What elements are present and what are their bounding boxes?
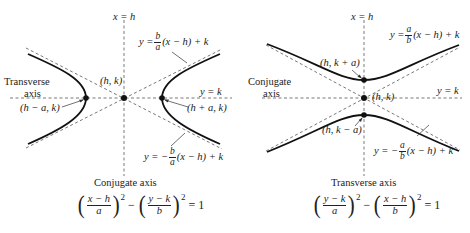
exponent: 2 (417, 192, 422, 202)
left-label-right-vertex: (h + a, k) (187, 103, 227, 114)
left-vertex-left-point (83, 95, 89, 101)
paren-open: ( (314, 192, 321, 218)
fraction-numerator: a (399, 141, 406, 152)
left-asym-lower-suffix: (x − h) + k (177, 152, 223, 163)
equals-one: = 1 (188, 198, 204, 213)
left-standard-equation: ( x − h a )2 − ( y − k b )2 = 1 (77, 192, 207, 218)
left-label-left-vertex: (h − a, k) (20, 103, 60, 114)
right-vertex-top-point (361, 77, 367, 83)
equals-one: = 1 (424, 198, 440, 213)
left-label-transverse-axis-1: Transverse (4, 77, 50, 88)
minus-sign: − (364, 198, 371, 213)
paren-close: ) (348, 192, 355, 218)
right-label-center: (h, k) (372, 92, 394, 103)
fraction-denominator: a (169, 158, 176, 168)
right-label-transverse-axis: Transverse axis (331, 178, 396, 189)
paren-open: ( (139, 192, 146, 218)
right-label-top-vertex: (h, k + a) (320, 58, 360, 69)
right-label-x-eq-h: x = h (351, 12, 373, 23)
right-label-y-eq-k: y = k (437, 86, 459, 97)
right-standard-equation: ( y − k a )2 − ( x − h b )2 = 1 (313, 192, 443, 218)
left-label-transverse-axis-2: axis (24, 89, 41, 100)
left-center-point (121, 95, 127, 101)
right-vertex-bottom-point (361, 112, 367, 118)
left-label-conjugate-axis: Conjugate axis (94, 178, 157, 189)
right-label-asymptote-lower: y = − a b (x − h) + k (374, 141, 453, 161)
left-label-asymptote-upper: y = b a (x − h) + k (139, 32, 208, 52)
left-label-y-eq-k: y = k (200, 87, 222, 98)
eq-fraction-1: x − h a (87, 194, 111, 216)
fraction-denominator: a (95, 206, 102, 217)
right-label-bottom-vertex: (h, k − a) (322, 125, 362, 136)
paren-close: ) (409, 192, 416, 218)
right-asym-lower-suffix: (x − h) + k (407, 146, 453, 157)
left-label-asymptote-lower: y = − b a (x − h) + k (144, 147, 223, 167)
left-vertex-right-leader (165, 100, 188, 107)
right-center-point (361, 95, 367, 101)
left-vertex-left-arrowhead (79, 100, 84, 103)
fraction-denominator: b (405, 36, 412, 46)
left-asym-upper-fraction: b a (154, 32, 161, 52)
left-asym-lower-prefix: y = − (144, 152, 168, 163)
right-asym-lower-prefix: y = − (374, 146, 398, 157)
paren-open: ( (374, 192, 381, 218)
fraction-numerator: x − h (87, 194, 111, 206)
fraction-denominator: b (399, 152, 406, 162)
left-asym-lower-fraction: b a (169, 147, 176, 167)
fraction-numerator: b (169, 147, 176, 158)
exponent: 2 (121, 192, 126, 202)
left-asym-upper-suffix: (x − h) + k (162, 37, 208, 48)
eq-fraction-1: y − k a (323, 194, 347, 216)
left-hyperbola-right-branch (162, 54, 220, 144)
eq-fraction-2: x − h b (383, 194, 407, 216)
paren-close: ) (173, 192, 180, 218)
left-label-x-eq-h: x = h (113, 12, 135, 23)
right-asymptote-lower-leader (417, 125, 429, 136)
eq-fraction-2: y − k b (148, 194, 172, 216)
fraction-denominator: a (331, 206, 338, 217)
left-vertex-right-point (159, 95, 165, 101)
fraction-numerator: y − k (148, 194, 172, 206)
left-vertex-right-arrowhead (164, 100, 169, 103)
left-asym-upper-prefix: y = (139, 37, 153, 48)
fraction-denominator: b (391, 206, 398, 217)
fraction-numerator: y − k (323, 194, 347, 206)
paren-open: ( (78, 192, 85, 218)
right-asym-lower-fraction: a b (399, 141, 406, 161)
minus-sign: − (128, 198, 135, 213)
fraction-denominator: a (154, 43, 161, 53)
fraction-numerator: b (154, 32, 161, 43)
paren-close: ) (113, 192, 120, 218)
exponent: 2 (356, 192, 361, 202)
left-asymptote-lower-leader (171, 133, 185, 146)
right-asym-upper-suffix: (x − h) + k (413, 30, 459, 41)
fraction-numerator: x − h (383, 194, 407, 206)
left-asymptote-upper-leader (172, 52, 187, 63)
right-asym-upper-fraction: a b (405, 25, 412, 45)
right-label-asymptote-upper: y = a b (x − h) + k (390, 25, 459, 45)
right-label-conjugate-axis-1: Conjugate (248, 77, 291, 88)
right-hyperbola-upper-branch (267, 44, 459, 80)
fraction-numerator: a (405, 25, 412, 36)
right-asym-upper-prefix: y = (390, 30, 404, 41)
fraction-denominator: b (156, 206, 163, 217)
left-label-center: (h, k) (100, 76, 122, 87)
exponent: 2 (181, 192, 186, 202)
right-label-conjugate-axis-2: axis (263, 89, 280, 100)
